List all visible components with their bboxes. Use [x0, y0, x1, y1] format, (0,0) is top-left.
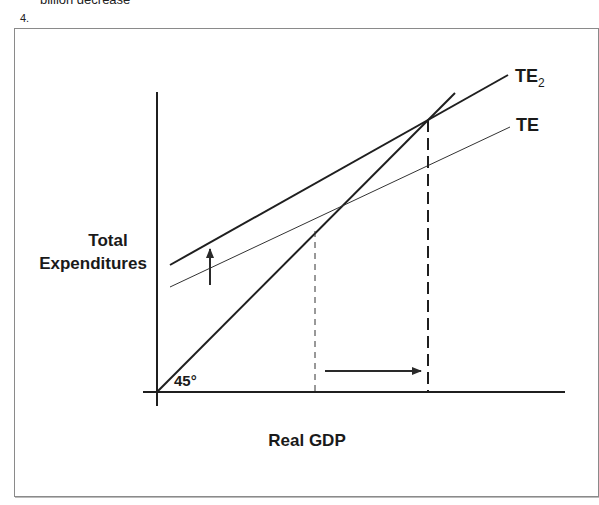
45-degree-line [157, 93, 455, 392]
y-axis-label-line2: Expenditures [39, 254, 147, 273]
keynesian-cross-diagram: Total Expenditures Real GDP 45° TE2 TE [0, 0, 599, 505]
y-axis-label-line1: Total [88, 231, 127, 250]
angle-label: 45° [174, 372, 197, 389]
te2-line [170, 75, 508, 265]
te2-label: TE2 [515, 66, 545, 90]
x-axis-label: Real GDP [268, 431, 345, 450]
te-label: TE [516, 115, 539, 135]
te-line [170, 127, 510, 287]
